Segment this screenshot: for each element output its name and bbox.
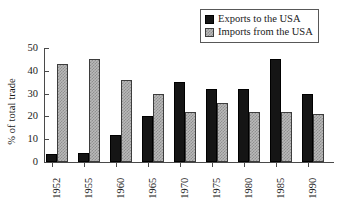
bar-chart: % of total trade 50 40 30 20 10 0 19521: [0, 0, 346, 205]
x-tick-label-text: 1952: [52, 178, 63, 199]
x-tick-label: 1980: [238, 166, 260, 204]
y-tick-label: 20: [21, 111, 38, 122]
bar-exports: [238, 89, 249, 162]
y-tick-mark: [45, 48, 49, 49]
bar-imports: [217, 103, 228, 162]
y-tick-mark: [45, 162, 49, 163]
x-tick-label-text: 1985: [276, 178, 287, 199]
y-tick-mark: [45, 71, 49, 72]
bar-imports: [185, 112, 196, 162]
chart-legend: Exports to the USA Imports from the USA: [200, 9, 319, 43]
black-square-swatch-icon: [205, 15, 214, 24]
bar-imports: [281, 112, 292, 162]
bar-exports: [78, 153, 89, 162]
bar-imports: [121, 80, 132, 162]
x-tick-label-text: 1980: [244, 178, 255, 199]
bar-imports: [57, 64, 68, 162]
x-tick-label-text: 1955: [84, 178, 95, 199]
bar-exports: [142, 116, 153, 162]
bar-exports: [206, 89, 217, 162]
x-tick-label-text: 1975: [212, 178, 223, 199]
bar-imports: [313, 114, 324, 162]
y-axis-line: [44, 48, 45, 163]
gray-checkered-square-swatch-icon: [205, 28, 214, 37]
bar-exports: [302, 94, 313, 162]
x-axis-line: [44, 162, 334, 163]
plot-area: [44, 48, 334, 162]
x-tick-label: 1960: [110, 166, 132, 204]
bar-exports: [270, 59, 281, 162]
x-axis-tick-labels: 195219551960196519701975198019851990: [44, 166, 334, 205]
y-axis-title-text: % of total trade: [6, 78, 17, 145]
bar-exports: [174, 82, 185, 162]
bar-imports: [89, 59, 100, 162]
x-tick-label: 1970: [174, 166, 196, 204]
bar-imports: [153, 94, 164, 162]
y-tick-label: 30: [21, 88, 38, 99]
bar-imports: [249, 112, 260, 162]
legend-item-exports: Exports to the USA: [205, 13, 313, 26]
y-tick-label: 50: [21, 43, 38, 54]
x-tick-label-text: 1965: [148, 178, 159, 199]
x-tick-label-text: 1960: [116, 178, 127, 199]
x-tick-label-text: 1970: [180, 178, 191, 199]
legend-item-imports: Imports from the USA: [205, 26, 313, 39]
y-tick-label: 10: [21, 134, 38, 145]
x-tick-label: 1965: [142, 166, 164, 204]
y-tick-mark: [45, 94, 49, 95]
bar-exports: [110, 135, 121, 162]
x-tick-label: 1990: [302, 166, 324, 204]
y-tick-mark: [45, 116, 49, 117]
bar-exports: [46, 154, 57, 162]
y-tick-label: 0: [21, 157, 38, 168]
y-axis-tick-labels: 50 40 30 20 10 0: [21, 0, 38, 205]
x-tick-label: 1955: [78, 166, 100, 204]
y-tick-mark: [45, 139, 49, 140]
y-tick-label: 40: [21, 66, 38, 77]
legend-label: Imports from the USA: [218, 27, 313, 38]
x-tick-label-text: 1990: [308, 178, 319, 199]
legend-label: Exports to the USA: [218, 14, 301, 25]
y-axis-title: % of total trade: [2, 56, 20, 166]
x-tick-label: 1952: [46, 166, 68, 204]
x-tick-label: 1985: [270, 166, 292, 204]
x-tick-label: 1975: [206, 166, 228, 204]
